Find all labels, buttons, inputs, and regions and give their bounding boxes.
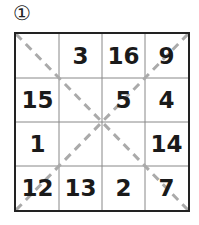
cell-r0c0[interactable] — [16, 34, 59, 78]
cell-r2c1[interactable] — [59, 122, 102, 166]
cell-r0c1[interactable]: 3 — [59, 34, 102, 78]
cell-r0c3[interactable]: 9 — [145, 34, 188, 78]
cell-r1c2[interactable]: 5 — [102, 78, 145, 122]
cell-r3c2[interactable]: 2 — [102, 166, 145, 210]
cell-r3c1[interactable]: 13 — [59, 166, 102, 210]
cell-r2c2[interactable] — [102, 122, 145, 166]
cell-r0c2[interactable]: 16 — [102, 34, 145, 78]
puzzle-number: ① — [13, 0, 31, 26]
cell-r3c3[interactable]: 7 — [145, 166, 188, 210]
cell-r1c1[interactable] — [59, 78, 102, 122]
cell-r3c0[interactable]: 12 — [16, 166, 59, 210]
cell-r2c3[interactable]: 14 — [145, 122, 188, 166]
cell-r1c0[interactable]: 15 — [16, 78, 59, 122]
cell-r2c0[interactable]: 1 — [16, 122, 59, 166]
magic-square-grid: 3 16 9 15 5 4 1 14 12 13 2 7 — [14, 32, 190, 212]
cell-r1c3[interactable]: 4 — [145, 78, 188, 122]
